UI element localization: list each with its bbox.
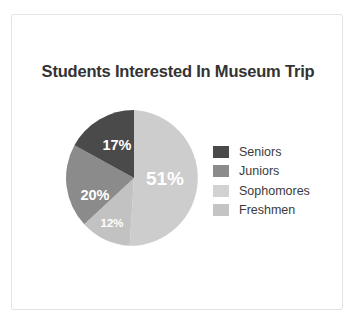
chart-card: Students Interested In Museum Trip 51% 1…: [11, 14, 343, 310]
pie-slice-label-freshmen: 51%: [146, 168, 184, 189]
legend-label-seniors: Seniors: [239, 146, 281, 159]
pie-chart: 51% 12% 20% 17%: [55, 99, 213, 257]
legend: Seniors Juniors Sophomores Freshmen: [213, 142, 338, 220]
pie-slice-label-seniors: 17%: [102, 137, 131, 153]
legend-label-juniors: Juniors: [239, 165, 279, 178]
legend-label-freshmen: Freshmen: [239, 204, 295, 217]
legend-item-juniors[interactable]: Juniors: [213, 162, 338, 182]
legend-swatch-icon-freshmen: [213, 204, 229, 216]
pie-chart-svg: 51% 12% 20% 17%: [55, 99, 213, 257]
pie-slice-label-sophomores: 12%: [100, 217, 123, 229]
legend-swatch-icon-sophomores: [213, 185, 229, 197]
legend-swatch-icon-seniors: [213, 146, 229, 158]
legend-label-sophomores: Sophomores: [239, 185, 310, 198]
legend-item-seniors[interactable]: Seniors: [213, 142, 338, 162]
page-title: Students Interested In Museum Trip: [12, 62, 344, 81]
pie-slice-label-juniors: 20%: [80, 187, 109, 203]
screenshot-root: Students Interested In Museum Trip 51% 1…: [0, 0, 355, 326]
legend-item-freshmen[interactable]: Freshmen: [213, 201, 338, 221]
legend-swatch-icon-juniors: [213, 165, 229, 177]
legend-item-sophomores[interactable]: Sophomores: [213, 181, 338, 201]
